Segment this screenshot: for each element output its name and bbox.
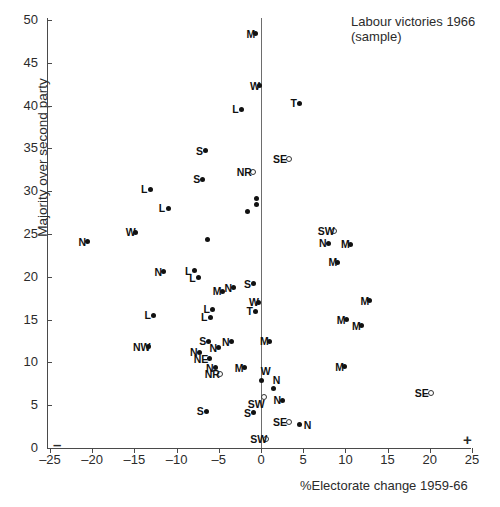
data-point bbox=[254, 202, 259, 207]
y-axis-tick-label: 5 bbox=[8, 397, 38, 412]
y-axis-tick bbox=[47, 20, 52, 21]
data-point-label: L bbox=[201, 312, 207, 322]
data-point bbox=[85, 239, 90, 244]
x-axis-tick-label: –25 bbox=[30, 452, 70, 467]
data-point-label: NW bbox=[133, 342, 151, 352]
data-point bbox=[253, 309, 258, 314]
data-point bbox=[151, 313, 156, 318]
x-axis-tick-label: –15 bbox=[114, 452, 154, 467]
y-axis-tick-label: 35 bbox=[8, 140, 38, 155]
data-point-label: S bbox=[193, 174, 200, 184]
y-axis-tick-label: 30 bbox=[8, 183, 38, 198]
data-point-label: S bbox=[244, 408, 251, 418]
data-point-label: N bbox=[155, 267, 163, 277]
data-point-label: W bbox=[250, 81, 260, 91]
data-point bbox=[251, 281, 256, 286]
data-point bbox=[251, 410, 256, 415]
x-axis-tick-label: 15 bbox=[368, 452, 408, 467]
data-point-label: W bbox=[126, 227, 136, 237]
data-point bbox=[231, 285, 236, 290]
y-axis-tick bbox=[47, 234, 52, 235]
x-axis-tick-label: –5 bbox=[199, 452, 239, 467]
data-point-label: M bbox=[260, 336, 269, 346]
y-axis-tick-label: 10 bbox=[8, 354, 38, 369]
data-point bbox=[254, 196, 259, 201]
data-point bbox=[229, 339, 234, 344]
data-point bbox=[245, 209, 250, 214]
data-point bbox=[297, 101, 302, 106]
data-point bbox=[196, 275, 201, 280]
y-axis-tick bbox=[47, 320, 52, 321]
data-point-label: L bbox=[232, 104, 238, 114]
data-point-label: L bbox=[141, 184, 147, 194]
y-axis-tick-label: 15 bbox=[8, 312, 38, 327]
data-point-label: M bbox=[235, 363, 244, 373]
data-point bbox=[259, 378, 264, 383]
y-axis-tick bbox=[47, 106, 52, 107]
data-point-label: M bbox=[352, 321, 361, 331]
data-point bbox=[204, 409, 209, 414]
y-axis-tick-label: 20 bbox=[8, 269, 38, 284]
data-point-label: M bbox=[247, 29, 256, 39]
data-point-label: S bbox=[196, 146, 203, 156]
data-point bbox=[271, 386, 276, 391]
data-point-label: T bbox=[290, 98, 296, 108]
data-point-label: N bbox=[304, 420, 312, 430]
data-point-label: S bbox=[244, 279, 251, 289]
data-point-label: M bbox=[341, 239, 350, 249]
data-point-label: SW bbox=[250, 434, 267, 444]
x-axis-tick-label: 5 bbox=[283, 452, 323, 467]
data-point-label: N bbox=[79, 237, 87, 247]
data-point-label: N bbox=[319, 238, 327, 248]
data-point-label: S bbox=[199, 336, 206, 346]
data-point bbox=[203, 148, 208, 153]
x-axis-line bbox=[47, 448, 471, 449]
data-point-label: N bbox=[274, 395, 282, 405]
data-point bbox=[297, 422, 302, 427]
data-point-label: N bbox=[209, 343, 217, 353]
data-point-label: M bbox=[337, 315, 346, 325]
data-point bbox=[216, 345, 221, 350]
data-point-label: N bbox=[225, 283, 233, 293]
data-point-label: L bbox=[189, 273, 195, 283]
data-point bbox=[239, 107, 244, 112]
data-point-label: M bbox=[360, 296, 369, 306]
x-axis-tick-label: –20 bbox=[72, 452, 112, 467]
y-axis-tick bbox=[47, 277, 52, 278]
data-point-label: NR bbox=[237, 167, 252, 177]
x-axis-tick-label: 0 bbox=[241, 452, 281, 467]
data-point-label: SE bbox=[415, 388, 429, 398]
data-point bbox=[280, 398, 285, 403]
negative-direction-sign: – bbox=[53, 437, 61, 452]
y-axis-tick bbox=[47, 362, 52, 363]
x-axis-tick-label: 10 bbox=[325, 452, 365, 467]
data-point bbox=[161, 269, 166, 274]
positive-direction-sign: + bbox=[463, 432, 472, 447]
data-point-label: L bbox=[144, 310, 150, 320]
data-point-label: SE bbox=[273, 417, 287, 427]
data-point bbox=[166, 206, 171, 211]
data-point-label: L bbox=[159, 203, 165, 213]
data-point-label: N bbox=[273, 375, 281, 385]
data-point bbox=[326, 241, 331, 246]
data-point-label: M bbox=[213, 286, 222, 296]
data-point-label: S bbox=[197, 406, 204, 416]
data-point-label: M bbox=[328, 257, 337, 267]
y-axis-tick-label: 45 bbox=[8, 55, 38, 70]
data-point-label: W bbox=[261, 366, 271, 376]
y-axis-tick bbox=[47, 63, 52, 64]
x-axis-label: %Electorate change 1959-66 bbox=[300, 478, 468, 493]
x-axis-tick-label: 25 bbox=[452, 452, 492, 467]
x-axis-tick-label: 20 bbox=[410, 452, 450, 467]
data-point-label: NR bbox=[205, 369, 220, 379]
data-point-label: N bbox=[222, 337, 230, 347]
data-point-label: T bbox=[247, 306, 253, 316]
y-axis-tick bbox=[47, 148, 52, 149]
data-point bbox=[200, 177, 205, 182]
zero-vertical-reference-line bbox=[261, 18, 262, 448]
data-point-label: M bbox=[335, 362, 344, 372]
y-axis-tick-label: 40 bbox=[8, 98, 38, 113]
data-point bbox=[210, 307, 215, 312]
legend-line-2: (sample) bbox=[351, 29, 475, 44]
legend-line-1: Labour victories 1966 bbox=[351, 14, 475, 29]
